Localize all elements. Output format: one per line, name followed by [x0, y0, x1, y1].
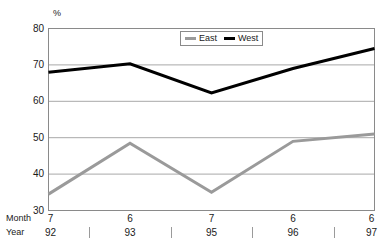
x-axis-separator-tick [334, 227, 335, 238]
series-line-west [49, 49, 375, 93]
x-axis-month-value: 7 [209, 213, 215, 224]
x-axis-year-value: 92 [45, 227, 56, 238]
gridlines [49, 65, 375, 174]
legend-swatch-icon [224, 37, 235, 40]
legend-entry-east[interactable]: East [185, 33, 217, 44]
x-axis-year-value: 93 [124, 227, 135, 238]
x-axis-year-value: 97 [366, 227, 377, 238]
x-axis-month-row-label: Month [6, 213, 31, 224]
x-axis-year-value: 96 [287, 227, 298, 238]
x-axis-month-value: 6 [369, 213, 375, 224]
legend-label: East [199, 33, 217, 44]
x-axis-month-value: 6 [127, 213, 133, 224]
x-axis-separator-tick [89, 227, 90, 238]
x-axis-year-row-label: Year [6, 227, 24, 238]
line-chart: % 807060504030 EastWest Month Year 76766… [0, 0, 390, 252]
x-axis-month-value: 6 [290, 213, 296, 224]
x-axis: Month Year 767669293959697 [0, 212, 390, 252]
x-axis-separator-tick [171, 227, 172, 238]
chart-legend: EastWest [180, 31, 263, 46]
legend-label: West [238, 33, 258, 44]
legend-entry-west[interactable]: West [224, 33, 258, 44]
series-lines [49, 49, 375, 195]
series-line-east [49, 134, 375, 194]
x-axis-month-value: 7 [48, 213, 54, 224]
legend-swatch-icon [185, 37, 196, 40]
plot-border [49, 29, 375, 211]
x-axis-separator-tick [252, 227, 253, 238]
x-axis-year-value: 95 [206, 227, 217, 238]
